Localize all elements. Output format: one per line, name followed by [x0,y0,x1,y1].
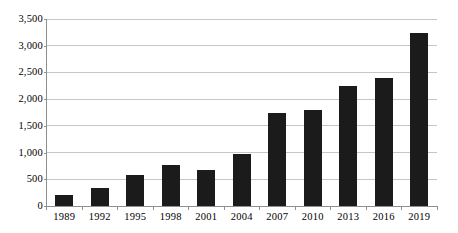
x-axis-tick [401,207,402,210]
x-axis-tick [82,207,83,210]
x-axis-tick [330,207,331,210]
bar-1989 [55,195,73,206]
bar-2010 [304,110,322,206]
x-axis-tick [153,207,154,210]
bar-2001 [197,170,215,206]
y-axis-label: 1,000 [0,147,43,159]
y-axis-label: 2,500 [0,66,43,78]
y-axis-tick [44,126,47,127]
y-axis-tick [44,179,47,180]
bar-1992 [91,188,109,206]
x-axis-label: 2019 [402,211,438,223]
x-axis-label: 2010 [295,211,331,223]
x-axis-tick [259,207,260,210]
bar-chart: 05001,0001,5002,0002,5003,0003,500 19891… [0,0,458,233]
y-axis-tick [44,72,47,73]
bar-2013 [339,86,357,206]
x-axis-tick [188,207,189,210]
x-axis-tick [295,207,296,210]
y-axis-label: 0 [0,200,43,212]
x-axis-tick [366,207,367,210]
bar-2019 [410,33,428,206]
bar-1995 [126,175,144,206]
x-axis-label: 2004 [224,211,260,223]
bar-2007 [268,113,286,207]
x-axis-tick [437,207,438,210]
y-axis-tick [44,46,47,47]
gridline [47,72,438,73]
y-axis-label: 2,000 [0,93,43,105]
x-axis-label: 2013 [331,211,367,223]
x-axis-label: 2001 [189,211,225,223]
x-axis-label: 1989 [47,211,83,223]
x-axis-label: 2007 [260,211,296,223]
bar-2016 [375,78,393,206]
y-axis-tick [44,99,47,100]
x-axis-tick [224,207,225,210]
y-axis-label: 1,500 [0,120,43,132]
y-axis-label: 500 [0,173,43,185]
x-axis-label: 1992 [82,211,118,223]
y-axis-label: 3,000 [0,40,43,52]
y-axis-tick [44,153,47,154]
x-axis-label: 1998 [153,211,189,223]
gridline [47,19,438,20]
bar-1998 [162,165,180,206]
x-axis-tick [46,207,47,210]
plot-area [47,19,438,206]
y-axis-tick [44,19,47,20]
y-axis-label: 3,500 [0,13,43,25]
x-axis-tick [117,207,118,210]
gridline [47,45,438,46]
x-axis-label: 1995 [118,211,154,223]
bar-2004 [233,154,251,206]
x-axis-label: 2016 [366,211,402,223]
x-axis-line [46,206,438,207]
